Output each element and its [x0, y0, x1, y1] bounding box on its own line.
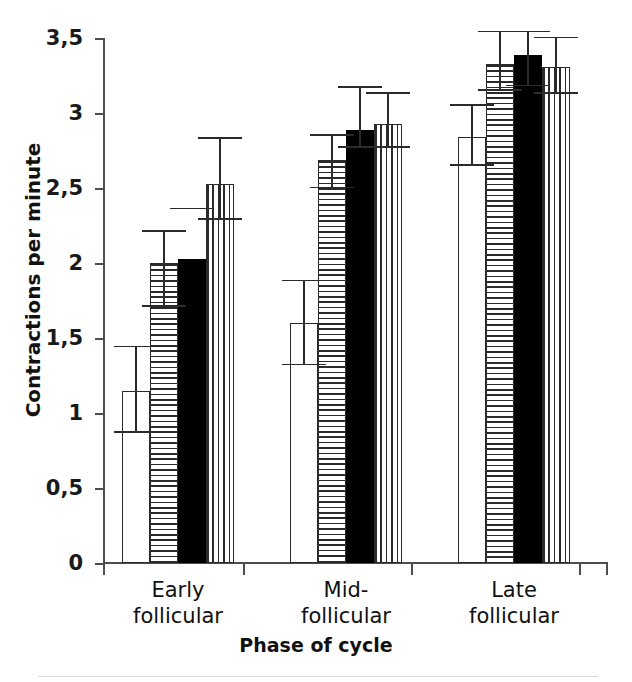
error-bar-cap-upper	[282, 280, 326, 282]
bar	[374, 124, 402, 564]
error-bar-cap-lower	[170, 208, 214, 210]
x-group-label: Latefollicular	[414, 578, 614, 629]
error-bar-cap-lower	[506, 85, 550, 87]
y-tick: 1,5	[95, 338, 104, 340]
bar-chart: Contractions per minute 00,511,522,533,5…	[0, 0, 632, 682]
y-tick-label: 1	[68, 403, 83, 424]
error-bar-cap-lower	[198, 218, 242, 220]
bar	[486, 64, 514, 564]
y-axis: 00,511,522,533,5	[103, 38, 105, 564]
error-bar-cap-upper	[450, 104, 494, 106]
bar	[458, 137, 486, 563]
error-bar-cap-lower	[310, 187, 354, 189]
y-tick-label: 0,5	[46, 478, 83, 499]
x-tick	[411, 564, 413, 575]
error-bar-cap-upper	[338, 86, 382, 88]
bar	[206, 184, 234, 564]
y-tick: 2	[95, 263, 104, 265]
y-tick: 2,5	[95, 188, 104, 190]
error-bar-stem	[555, 37, 557, 93]
error-bar-stem	[359, 86, 361, 146]
bar	[514, 55, 542, 564]
y-tick: 1	[95, 413, 104, 415]
x-group-label-line: Late	[414, 578, 614, 604]
error-bar-stem	[387, 92, 389, 146]
y-tick-label: 2,5	[46, 178, 83, 199]
error-bar-stem	[527, 31, 529, 85]
error-bar-cap-lower	[114, 431, 158, 433]
bar	[542, 67, 570, 564]
bar	[318, 160, 346, 564]
error-bar-stem	[219, 137, 221, 218]
x-axis-title: Phase of cycle	[0, 634, 632, 656]
error-bar-cap-upper	[366, 92, 410, 94]
bar	[346, 130, 374, 564]
error-bar-cap-upper	[142, 230, 186, 232]
error-bar-cap-lower	[534, 92, 578, 94]
error-bar-cap-upper	[506, 31, 550, 33]
error-bar-cap-lower	[282, 364, 326, 366]
error-bar-cap-upper	[198, 137, 242, 139]
plot-area: 00,511,522,533,5 EarlyfollicularMid-foll…	[0, 0, 632, 682]
x-tick	[579, 564, 581, 575]
error-bar-cap-lower	[142, 305, 186, 307]
error-bar-cap-lower	[450, 164, 494, 166]
x-tick	[606, 564, 608, 575]
y-tick: 3,5	[95, 38, 104, 40]
y-tick-label: 3,5	[46, 28, 83, 49]
error-bar-stem	[331, 134, 333, 187]
y-tick-label: 1,5	[46, 328, 83, 349]
y-tick-label: 3	[68, 103, 83, 124]
bar	[150, 263, 178, 563]
x-tick	[103, 564, 105, 575]
y-tick-label: 2	[68, 253, 83, 274]
y-tick: 3	[95, 113, 104, 115]
y-tick: 0,5	[95, 488, 104, 490]
error-bar-stem	[471, 104, 473, 164]
y-tick-label: 0	[68, 553, 83, 574]
error-bar-cap-lower	[366, 146, 410, 148]
error-bar-stem	[135, 346, 137, 432]
footer-divider	[38, 676, 598, 677]
error-bar-stem	[303, 280, 305, 364]
error-bar-cap-upper	[310, 134, 354, 136]
error-bar-stem	[163, 230, 165, 305]
error-bar-stem	[499, 31, 501, 90]
error-bar-cap-upper	[534, 37, 578, 39]
error-bar-cap-upper	[114, 346, 158, 348]
error-bar-cap-lower	[478, 89, 522, 91]
x-group-label-line: follicular	[414, 604, 614, 630]
x-tick	[243, 564, 245, 575]
